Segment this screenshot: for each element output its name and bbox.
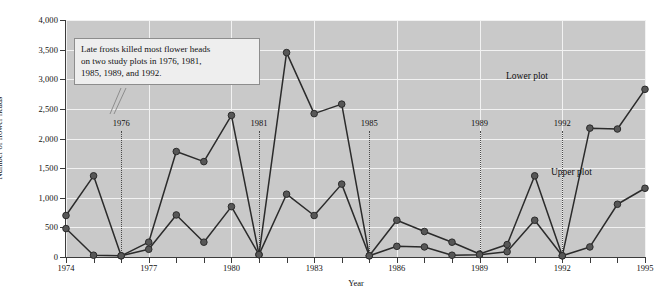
data-point-marker (531, 217, 538, 224)
data-point-marker (642, 185, 649, 192)
data-point-marker (504, 241, 511, 248)
data-point-marker (145, 246, 152, 253)
data-point-marker (504, 248, 511, 255)
data-point-marker (449, 252, 456, 259)
data-point-marker (256, 251, 263, 258)
data-point-marker (531, 173, 538, 180)
data-point-marker (449, 239, 456, 246)
annotation-pointer-icon (108, 88, 128, 116)
data-point-marker (145, 239, 152, 246)
data-point-marker (642, 86, 649, 93)
data-point-marker (228, 112, 235, 119)
x-axis-title: Year (348, 278, 364, 288)
data-point-marker (366, 253, 373, 260)
data-point-marker (394, 243, 401, 250)
data-point-marker (614, 201, 621, 208)
data-point-marker (587, 125, 594, 132)
data-point-marker (63, 212, 70, 219)
series-label-lower-plot: Lower plot (506, 72, 548, 82)
data-point-marker (283, 49, 290, 56)
annotation-callout: Late frosts killed most flower heads on … (74, 38, 260, 85)
data-point-marker (421, 228, 428, 235)
chart-figure: 05001,0001,5002,0002,5003,0003,5004,0001… (0, 0, 654, 298)
data-point-marker (614, 126, 621, 133)
data-point-marker (311, 212, 318, 219)
data-point-marker (587, 244, 594, 251)
data-point-marker (394, 217, 401, 224)
data-point-marker (90, 173, 97, 180)
data-point-marker (476, 251, 483, 258)
annotation-line-2: on two study plots in 1976, 1981, (81, 55, 254, 67)
data-point-marker (173, 212, 180, 219)
data-point-marker (559, 253, 566, 260)
data-point-marker (338, 101, 345, 108)
series-label-upper-plot: Upper plot (551, 168, 592, 178)
data-point-marker (90, 252, 97, 259)
data-point-marker (421, 244, 428, 251)
y-axis-title: Number of flower heads (0, 97, 4, 180)
data-point-marker (338, 181, 345, 188)
data-point-marker (201, 239, 208, 246)
data-point-marker (228, 203, 235, 210)
annotation-line-1: Late frosts killed most flower heads (81, 43, 254, 55)
data-point-marker (63, 225, 70, 232)
data-point-marker (311, 110, 318, 117)
annotation-line-3: 1985, 1989, and 1992. (81, 67, 254, 79)
data-point-marker (283, 191, 290, 198)
data-point-marker (118, 253, 125, 260)
data-point-marker (201, 158, 208, 165)
data-point-marker (173, 148, 180, 155)
